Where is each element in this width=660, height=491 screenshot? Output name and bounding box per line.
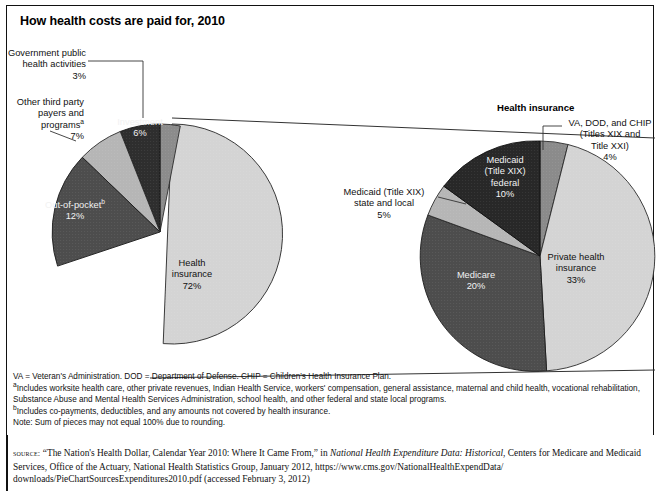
label-medicare: Medicare 20%	[436, 270, 516, 293]
label-line-with-footnote: programsa	[0, 120, 84, 131]
source-part-1: “The Nation's Health Dollar, Calendar Ye…	[40, 448, 330, 458]
note-abbreviations: VA = Veteran's Administration. DOD = Dep…	[13, 371, 649, 383]
label-other-third-party-payers: Other third party payers and programsa 7…	[0, 97, 84, 143]
label-value: 72%	[152, 281, 232, 292]
label-value: 20%	[436, 281, 516, 292]
label-line: Private health	[526, 252, 626, 263]
label-line: federal	[465, 178, 545, 189]
label-value: 7%	[0, 131, 84, 142]
figure-container: How health costs are paid for, 2010	[0, 0, 660, 491]
label-line: VA, DOD, and CHIP	[560, 118, 660, 129]
label-line: Other third party	[0, 97, 84, 108]
label-medicaid-federal: Medicaid (Title XIX) federal 10%	[465, 155, 545, 201]
label-va-dod-chip: VA, DOD, and CHIP (Titles XIX and Title …	[560, 118, 660, 164]
label-investment: Investment 6%	[100, 117, 180, 140]
label-line-with-footnote: Out-of-pocketb	[25, 200, 125, 211]
label-value: 4%	[560, 152, 660, 163]
label-line: Investment	[100, 117, 180, 128]
footnote-b-text: Includes co-payments, deductibles, and a…	[17, 407, 331, 416]
label-line: programs	[41, 120, 80, 130]
label-line: Title XXI)	[560, 141, 660, 152]
label-line: insurance	[152, 269, 232, 280]
label-line: state and local	[329, 198, 439, 209]
footnote-a-text: Includes worksite health care, other pri…	[13, 384, 640, 405]
label-line: (Titles XIX and	[560, 129, 660, 140]
notes-block: VA = Veteran's Administration. DOD = Dep…	[13, 371, 649, 429]
label-health-insurance: Health insurance 72%	[152, 258, 232, 292]
note-footnote-a: aIncludes worksite health care, other pr…	[13, 383, 649, 406]
label-line: (Title XIX)	[465, 166, 545, 177]
label-line: Government public	[0, 48, 86, 59]
label-private-health-insurance: Private health insurance 33%	[526, 252, 626, 286]
source-citation: source: “The Nation's Health Dollar, Cal…	[13, 447, 649, 486]
left-slice-health-insurance[interactable]	[163, 124, 282, 344]
label-government-public-health: Government public health activities 3%	[0, 48, 86, 82]
label-value: 10%	[465, 189, 545, 200]
label-value: 12%	[25, 211, 125, 222]
label-line: payers and	[0, 108, 84, 119]
label-value: 33%	[526, 275, 626, 286]
label-value: 3%	[0, 71, 86, 82]
footnote-marker-b: b	[101, 198, 105, 205]
label-line: insurance	[526, 263, 626, 274]
label-line: Health	[152, 258, 232, 269]
label-medicaid-state-local: Medicaid (Title XIX) state and local 5%	[329, 187, 439, 221]
label-line: health activities	[0, 59, 86, 70]
label-out-of-pocket: Out-of-pocketb 12%	[25, 200, 125, 223]
label-value: 5%	[329, 210, 439, 221]
label-line: Out-of-pocket	[45, 200, 101, 210]
source-keyword: source:	[13, 449, 40, 458]
label-line: Medicaid (Title XIX)	[329, 187, 439, 198]
footnote-marker-a: a	[80, 118, 84, 125]
right-panel-header: Health insurance	[497, 102, 574, 113]
label-line: Medicaid	[465, 155, 545, 166]
note-rounding: Note: Sum of pieces may not equal 100% d…	[13, 417, 649, 429]
note-footnote-b: bIncludes co-payments, deductibles, and …	[13, 406, 649, 418]
source-italic-title: National Health Expenditure Data: Histor…	[330, 448, 503, 458]
label-line: Medicare	[436, 270, 516, 281]
label-value: 6%	[100, 128, 180, 139]
